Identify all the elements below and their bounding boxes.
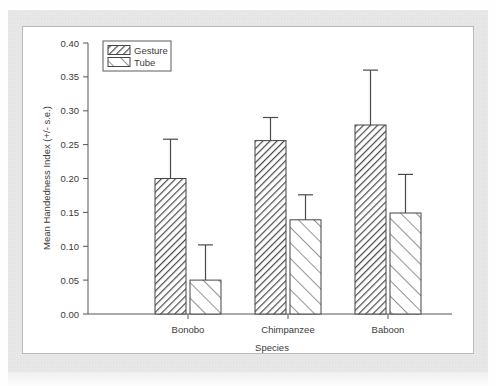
bar-baboon-gesture [355, 125, 386, 314]
legend-label-gesture: Gesture [134, 45, 168, 56]
y-tick-label-2: 0.10 [61, 241, 80, 252]
bar-baboon-tube [390, 213, 421, 314]
legend-swatch-gesture [108, 46, 130, 55]
x-tick-label-baboon: Baboon [372, 324, 405, 335]
y-tick-label-3: 0.15 [61, 207, 80, 218]
errorbar-chimpanzee-tube [298, 195, 313, 220]
x-axis: Bonobo Chimpanzee Baboon Species [88, 314, 452, 353]
chart-legend: Gesture Tube [103, 41, 171, 71]
bar-bonobo-gesture [155, 179, 186, 315]
bar-chimpanzee-tube [290, 220, 321, 314]
legend-label-tube: Tube [134, 57, 155, 68]
errorbar-baboon-tube [398, 174, 413, 213]
y-tick-label-0: 0.00 [61, 309, 80, 320]
y-axis-ticks [83, 43, 88, 314]
bar-group-chimpanzee [255, 118, 321, 315]
errorbar-bonobo-tube [198, 245, 213, 280]
y-tick-label-4: 0.20 [61, 173, 80, 184]
y-tick-label-6: 0.30 [61, 105, 80, 116]
y-tick-label-8: 0.40 [61, 38, 80, 49]
bar-chart: 0.00 0.05 0.10 0.15 0.20 0.25 0.30 0.35 … [0, 0, 496, 386]
bar-chimpanzee-gesture [255, 141, 286, 314]
y-tick-label-7: 0.35 [61, 71, 80, 82]
x-tick-label-chimpanzee: Chimpanzee [261, 324, 314, 335]
figure-page: 0.00 0.05 0.10 0.15 0.20 0.25 0.30 0.35 … [0, 0, 496, 386]
y-axis: 0.00 0.05 0.10 0.15 0.20 0.25 0.30 0.35 … [41, 38, 88, 320]
x-tick-label-bonobo: Bonobo [172, 324, 205, 335]
x-axis-title: Species [255, 342, 289, 353]
y-tick-label-1: 0.05 [61, 275, 80, 286]
bar-group-bonobo [155, 139, 221, 314]
bar-group-baboon [355, 70, 421, 314]
legend-swatch-tube [108, 58, 130, 67]
errorbar-bonobo-gesture [163, 139, 178, 178]
y-tick-label-5: 0.25 [61, 139, 80, 150]
errorbar-chimpanzee-gesture [263, 118, 278, 141]
errorbar-baboon-gesture [363, 70, 378, 125]
bar-bonobo-tube [190, 280, 221, 314]
y-axis-title: Mean Handedness Index (+/- s.e.) [41, 106, 52, 250]
